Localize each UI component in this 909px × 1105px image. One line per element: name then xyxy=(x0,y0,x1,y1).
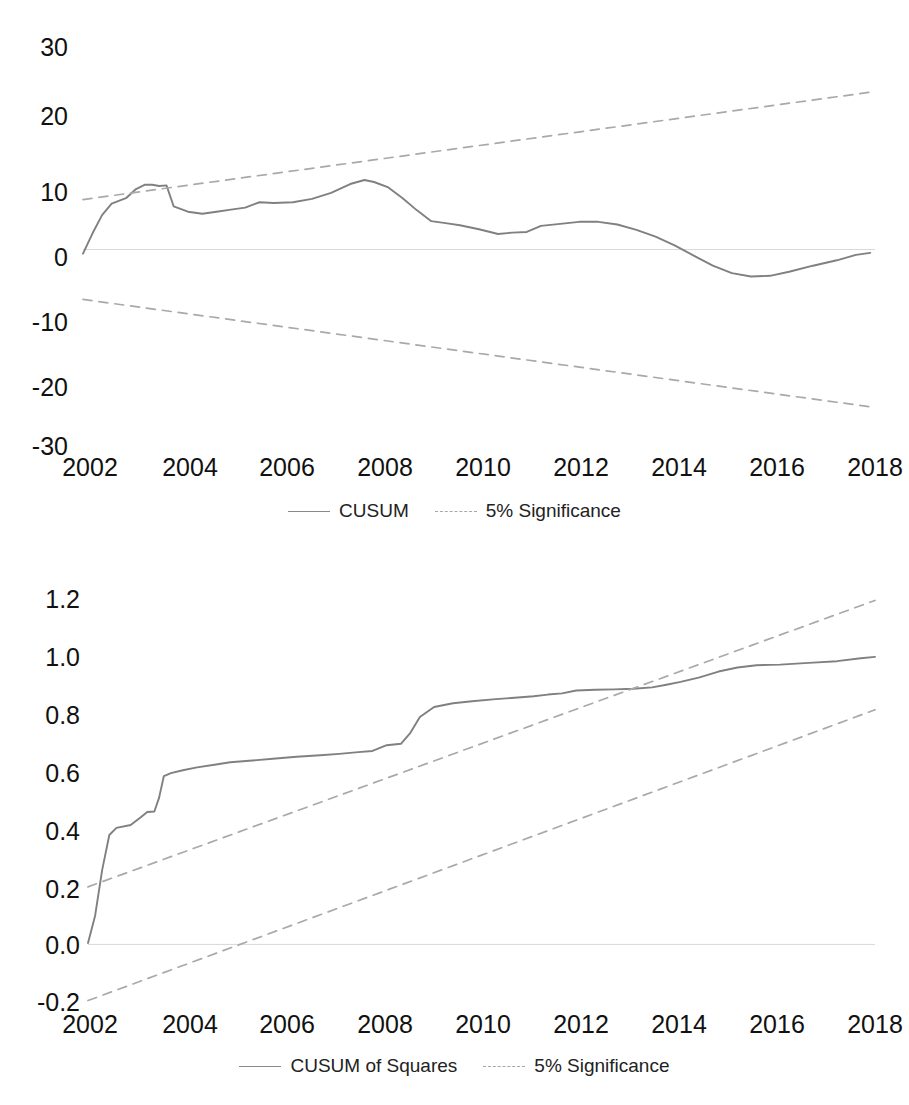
cusum-xtick-2010: 2010 xyxy=(441,455,525,480)
cusumsq-ytick-3: 0.6 xyxy=(6,761,80,786)
cusum-xtick-2002: 2002 xyxy=(48,455,132,480)
series-line-0 xyxy=(83,180,870,277)
cusum-xtick-2012: 2012 xyxy=(539,455,623,480)
cusum-chart: 30 20 10 0 -10 -20 -30 2002 2004 2006 20… xyxy=(0,0,909,540)
cusum-xtick-2004: 2004 xyxy=(148,455,232,480)
cusumsq-ytick-5: 0.2 xyxy=(6,877,80,902)
cusum-of-squares-legend: CUSUM of Squares 5% Significance xyxy=(0,1055,909,1077)
cusumsq-ytick-1: 1.0 xyxy=(6,645,80,670)
cusum-ytick-4: -10 xyxy=(6,310,68,335)
cusumsq-xtick-2004: 2004 xyxy=(148,1012,232,1037)
cusumsq-xtick-2012: 2012 xyxy=(539,1012,623,1037)
cusumsq-ytick-6: 0.0 xyxy=(6,933,80,958)
legend-label-cusum: CUSUM xyxy=(339,500,409,522)
cusum-xtick-2008: 2008 xyxy=(343,455,427,480)
cusum-ytick-3: 0 xyxy=(6,245,68,270)
series-line-0 xyxy=(88,657,875,943)
cusum-plot-area: 30 20 10 0 -10 -20 -30 2002 2004 2006 20… xyxy=(0,0,909,540)
solid-line-swatch-icon xyxy=(288,511,330,512)
legend-label-significance-2: 5% Significance xyxy=(534,1055,669,1077)
cusumsq-ytick-4: 0.4 xyxy=(6,819,80,844)
cusumsq-ytick-0: 1.2 xyxy=(6,587,80,612)
cusum-ytick-2: 10 xyxy=(6,180,68,205)
legend-label-cusum-of-squares: CUSUM of Squares xyxy=(290,1055,457,1077)
legend-entry-cusum-of-squares: CUSUM of Squares xyxy=(239,1055,457,1077)
cusum-ytick-0: 30 xyxy=(6,35,68,60)
cusum-xtick-2014: 2014 xyxy=(637,455,721,480)
cusumsq-xtick-2008: 2008 xyxy=(343,1012,427,1037)
series-line-1 xyxy=(83,92,875,200)
cusum-xtick-2006: 2006 xyxy=(245,455,329,480)
cusumsq-xtick-2016: 2016 xyxy=(735,1012,819,1037)
series-line-1 xyxy=(88,600,875,886)
cusumsq-xtick-2018: 2018 xyxy=(833,1012,909,1037)
dashed-line-swatch-icon xyxy=(435,511,477,512)
cusumsq-xtick-2010: 2010 xyxy=(441,1012,525,1037)
cusum-xtick-2018: 2018 xyxy=(833,455,909,480)
cusum-of-squares-plot-area: 1.2 1.0 0.8 0.6 0.4 0.2 0.0 -0.2 2002 20… xyxy=(0,540,909,1105)
solid-line-swatch-icon xyxy=(239,1066,281,1067)
cusumsq-xtick-2002: 2002 xyxy=(48,1012,132,1037)
cusumsq-xtick-2014: 2014 xyxy=(637,1012,721,1037)
series-line-2 xyxy=(83,299,875,407)
legend-entry-significance: 5% Significance xyxy=(435,500,621,522)
legend-label-significance: 5% Significance xyxy=(486,500,621,522)
legend-entry-cusum: CUSUM xyxy=(288,500,409,522)
cusum-ytick-5: -20 xyxy=(6,375,68,400)
series-line-2 xyxy=(88,710,875,1001)
cusum-legend: CUSUM 5% Significance xyxy=(0,500,909,522)
legend-entry-significance-2: 5% Significance xyxy=(483,1055,669,1077)
cusumsq-xtick-2006: 2006 xyxy=(245,1012,329,1037)
cusum-ytick-1: 20 xyxy=(6,104,68,129)
cusumsq-ytick-2: 0.8 xyxy=(6,703,80,728)
cusum-of-squares-chart: 1.2 1.0 0.8 0.6 0.4 0.2 0.0 -0.2 2002 20… xyxy=(0,540,909,1105)
cusum-xtick-2016: 2016 xyxy=(735,455,819,480)
dashed-line-swatch-icon xyxy=(483,1066,525,1067)
